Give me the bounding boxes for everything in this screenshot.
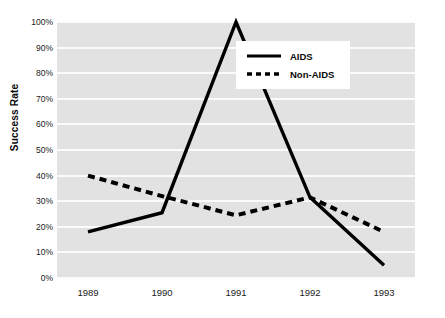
x-axis-tick-label: 1993 <box>354 287 414 298</box>
x-axis-tick-label: 1991 <box>206 287 266 298</box>
y-axis-tick-label: 20% <box>1 223 53 232</box>
x-axis-tick-label: 1990 <box>132 287 192 298</box>
solid-line-icon <box>246 50 282 62</box>
y-axis-tick-label: 80% <box>1 69 53 78</box>
y-axis-tick-label: 60% <box>1 120 53 129</box>
y-axis-tick-label: 100% <box>1 18 53 27</box>
x-axis-tick-label: 1992 <box>280 287 340 298</box>
y-axis-tick-label: 50% <box>1 146 53 155</box>
y-axis-tick-label: 10% <box>1 248 53 257</box>
y-axis-tick-label: 0% <box>1 274 53 283</box>
legend-label-non-aids: Non-AIDS <box>290 69 334 80</box>
y-axis-tick-label: 90% <box>1 43 53 52</box>
y-axis-tick-label: 70% <box>1 95 53 104</box>
line-chart: Success Rate 0%10%20%30%40%50%60%70%80%9… <box>0 0 445 318</box>
legend-label-aids: AIDS <box>290 51 313 62</box>
x-axis-tick-label: 1989 <box>58 287 118 298</box>
dashed-line-icon <box>246 68 282 80</box>
legend-item-aids: AIDS <box>236 47 350 65</box>
legend-item-non-aids: Non-AIDS <box>236 65 350 83</box>
y-axis-tick-label: 30% <box>1 197 53 206</box>
chart-legend: AIDS Non-AIDS <box>236 41 350 89</box>
y-axis-tick-label: 40% <box>1 171 53 180</box>
